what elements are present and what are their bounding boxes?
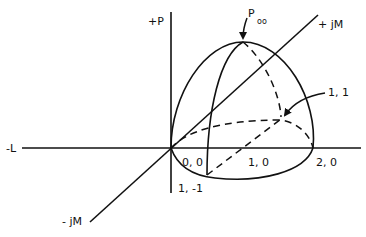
peak-subscript: oo [257,17,267,26]
peak-arrow [243,18,247,38]
minus-l-label: -L [6,142,17,155]
base-back-ellipse [171,120,313,148]
origin-label: 0, 0 [182,156,203,169]
dome-diagram: +P -L + jM - jM P oo 0, 0 1, 0 2, 0 1, -… [0,0,366,237]
dome-outer-arc [171,42,314,148]
one-zero-label: 1, 0 [248,156,269,169]
one-minus-one-label: 1, -1 [178,182,203,195]
jm-axis [90,15,318,222]
minus-jm-label: - jM [62,215,82,228]
plus-p-label: +P [148,15,164,28]
two-zero-label: 2, 0 [316,156,337,169]
peak-label: P [248,7,255,20]
meridian-front [207,42,243,175]
plus-jm-label: + jM [318,18,343,31]
diagram-canvas: +P -L + jM - jM P oo 0, 0 1, 0 2, 0 1, -… [0,0,366,237]
one-one-label: 1, 1 [328,86,349,99]
dashed-chord [207,119,281,175]
